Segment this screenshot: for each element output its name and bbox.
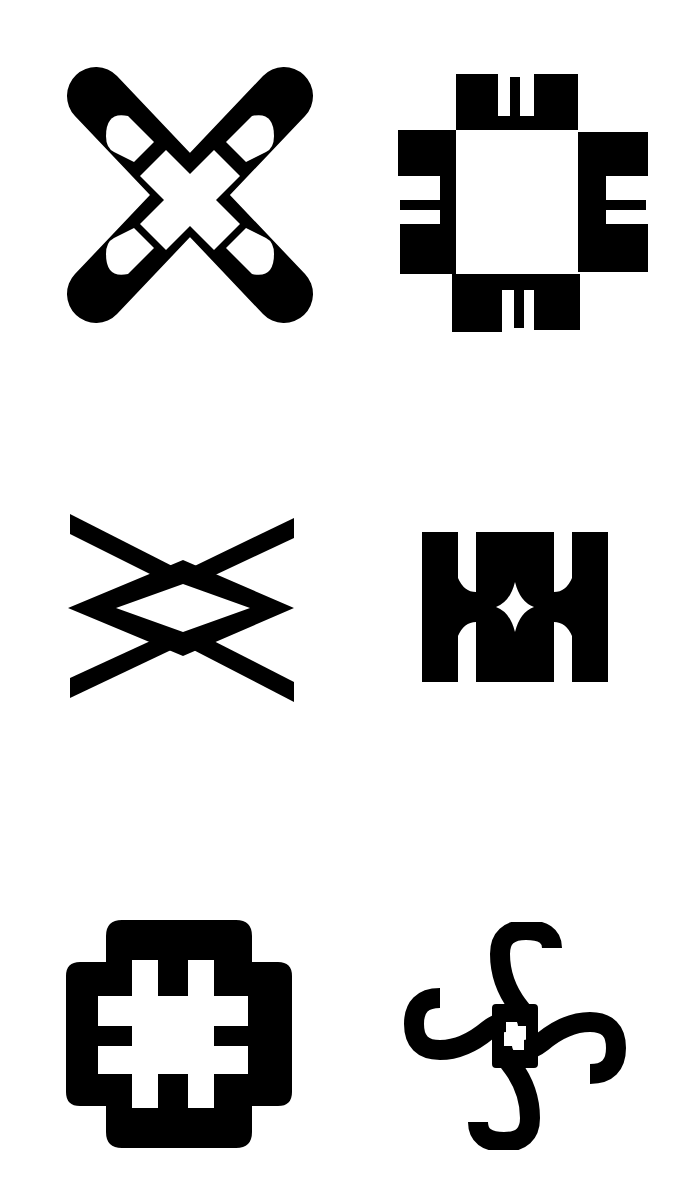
symbol-x-cross-loops-icon xyxy=(66,66,314,324)
symbol-double-x-diamond-icon xyxy=(66,512,300,708)
symbol-square-comb-frame-icon xyxy=(396,72,650,334)
symbol-hash-cross-icon xyxy=(62,914,296,1154)
symbol-double-hourglass-star-icon xyxy=(420,530,610,684)
symbol-four-s-spiral-icon xyxy=(400,922,630,1150)
